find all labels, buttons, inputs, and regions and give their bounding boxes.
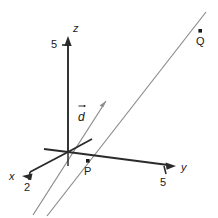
point-P-marker: [86, 159, 90, 163]
figure-root: z 5 y 5 x 2 d P Q: [0, 0, 218, 218]
parametric-line: [47, 12, 206, 216]
x-axis-label: x: [9, 171, 15, 182]
point-Q-label: Q: [196, 36, 205, 47]
point-P-label: P: [84, 166, 91, 177]
direction-vector-line: [33, 101, 106, 215]
y-axis-tick-label-5: 5: [160, 177, 166, 188]
y-axis-arrowhead: [166, 162, 176, 169]
y-axis-shaft: [68, 152, 168, 165]
direction-vector-arrowhead: [100, 101, 107, 108]
coordinate-diagram-canvas: [0, 0, 218, 218]
direction-vector-label-group: d: [78, 107, 85, 125]
x-axis-tick-label-2: 2: [24, 182, 30, 193]
direction-vector-label: d: [78, 110, 85, 124]
x-axis-tick-2: [29, 172, 30, 180]
negative-y-axis-ray: [44, 149, 68, 152]
point-Q-marker: [198, 29, 202, 33]
x-axis-arrowhead: [22, 173, 33, 180]
y-axis-label: y: [181, 162, 187, 173]
z-axis-label: z: [73, 23, 79, 34]
y-axis-tick-5: [164, 166, 166, 174]
vector-overarrow-icon: [78, 103, 86, 108]
z-axis-tick-label-5: 5: [51, 39, 57, 50]
